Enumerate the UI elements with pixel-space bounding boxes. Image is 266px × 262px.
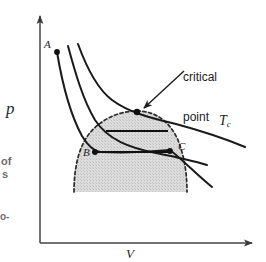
critical-point-annotation: critical point <box>183 44 217 152</box>
page-text-fragment-1: of <box>1 155 11 167</box>
label-isotherm-tc: Tc <box>219 113 231 129</box>
label-tc-main: T <box>219 113 227 128</box>
critical-annotation-line-1: critical <box>183 71 217 84</box>
critical-annotation-line-2: point <box>183 111 217 124</box>
y-axis-label: p <box>6 99 15 118</box>
label-point-b: B <box>83 146 90 158</box>
critical-point-arrow <box>144 71 184 108</box>
marker-point-b <box>92 149 98 155</box>
page-text-fragment-2: s <box>2 168 8 180</box>
label-point-a: A <box>44 38 51 50</box>
x-axis-label: V <box>126 247 134 262</box>
label-tc-subscript: c <box>227 119 231 129</box>
marker-point-a <box>54 49 60 55</box>
marker-critical-point <box>134 109 140 115</box>
marker-point-c <box>167 148 173 154</box>
page-text-fragment-3: o- <box>0 211 9 222</box>
